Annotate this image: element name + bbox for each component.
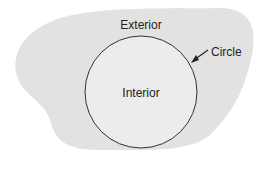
diagram-svg: Exterior Interior Circle [0, 0, 269, 177]
exterior-label: Exterior [120, 18, 161, 32]
diagram-canvas: Exterior Interior Circle [0, 0, 269, 177]
circle-label: Circle [211, 45, 242, 59]
interior-label: Interior [122, 86, 159, 100]
